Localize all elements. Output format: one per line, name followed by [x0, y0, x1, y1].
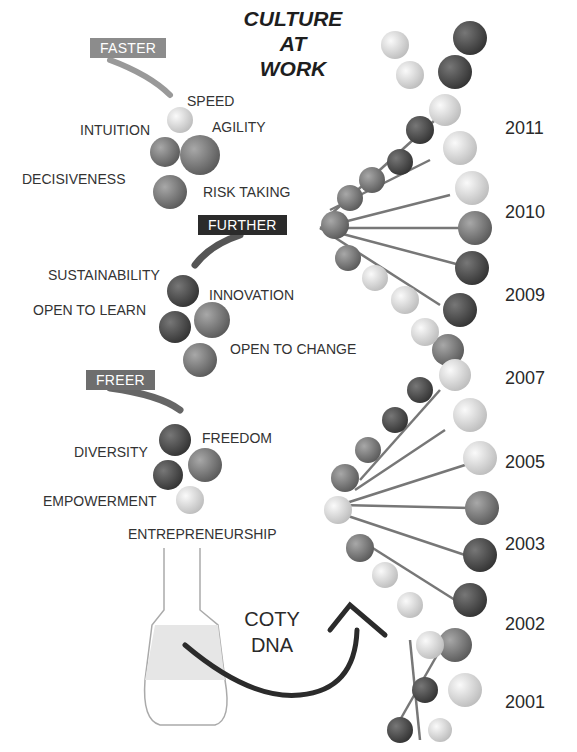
value-agility: AGILITY: [212, 119, 266, 135]
year-label: 2001: [505, 692, 545, 713]
title-line-3: WORK: [238, 56, 348, 81]
tag-further: FURTHER: [198, 215, 287, 235]
year-label: 2002: [505, 614, 545, 635]
value-spheres: [150, 107, 230, 514]
year-label: 2007: [505, 368, 545, 389]
year-label: 2011: [505, 118, 544, 139]
coty-dna-line-2: DNA: [232, 632, 312, 658]
title-line-1: CULTURE: [238, 6, 348, 31]
value-innovation: INNOVATION: [209, 287, 294, 303]
tag-faster: FASTER: [90, 38, 166, 58]
page-title: CULTURE AT WORK: [238, 6, 348, 81]
year-label: 2010: [505, 202, 545, 223]
value-freedom: FREEDOM: [202, 430, 272, 446]
value-decisiveness: DECISIVENESS: [22, 171, 125, 187]
value-diversity: DIVERSITY: [74, 444, 148, 460]
year-label: 2003: [505, 534, 545, 555]
value-sustainability: SUSTAINABILITY: [48, 267, 160, 283]
value-empowerment: EMPOWERMENT: [43, 493, 157, 509]
value-entrepreneurship: ENTREPRENEURSHIP: [128, 526, 277, 542]
tag-freer: FREER: [86, 370, 155, 390]
dna-helix: [320, 21, 499, 743]
year-label: 2005: [505, 452, 545, 473]
coty-dna-line-1: COTY: [232, 606, 312, 632]
value-intuition: INTUITION: [80, 122, 150, 138]
year-label: 2009: [505, 285, 545, 306]
value-risk-taking: RISK TAKING: [203, 184, 290, 200]
coty-dna-label: COTY DNA: [232, 606, 312, 658]
value-open-to-change: OPEN TO CHANGE: [230, 341, 356, 357]
value-speed: SPEED: [187, 93, 234, 109]
title-line-2: AT: [238, 31, 348, 56]
flask-icon: [145, 548, 227, 725]
value-open-to-learn: OPEN TO LEARN: [33, 302, 146, 318]
